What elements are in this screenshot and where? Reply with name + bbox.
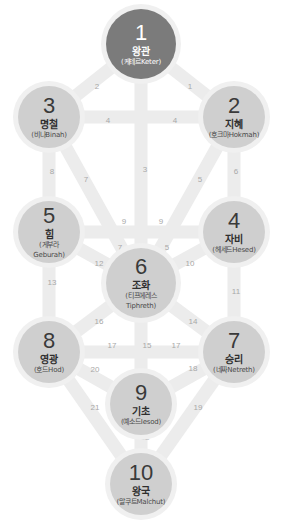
sephirah-number: 3 [43,95,55,117]
sephirah-transliteration: (비나Binah) [31,131,67,140]
sephirah-node-8: 8영광(호드Hod) [18,321,80,383]
path-number-label: 6 [234,167,239,176]
path-number-label: 4 [173,116,178,125]
sephirah-transliteration: (티프에레스 [125,292,157,301]
sephirah-transliteration: (호크마Hokmah) [209,131,259,140]
path-number-label: 20 [91,365,100,374]
sephirah-name: 영광 [40,354,58,365]
sephirah-name: 승리 [225,354,243,365]
path-number-label: 13 [48,278,57,287]
path-number-label: 8 [50,167,55,176]
sephirah-transliteration: Geburah) [33,251,64,260]
sephirah-node-5: 5힘(게부라Geburah) [18,201,80,263]
path-number-label: 10 [186,259,195,268]
sephirah-node-10: 10왕국(말쿠트Malchut) [110,453,172,515]
sephirah-node-7: 7승리(네짜Netreth) [203,321,265,383]
path-number-label: 17 [172,341,181,350]
path-number-label: 3 [143,165,148,174]
path-number-label: 21 [91,403,100,412]
path-number-label: 4 [106,116,111,125]
sephirah-name: 기초 [132,406,150,417]
path-number-label: 1 [188,82,193,91]
path-number-label: 14 [189,317,198,326]
sephirah-name: 자비 [225,234,243,245]
sephirah-number: 1 [135,22,147,44]
sephirah-node-3: 3명철(비나Binah) [18,86,80,148]
sephirah-number: 2 [228,95,240,117]
path-number-label: 2 [95,82,100,91]
path-number-label: 12 [95,259,104,268]
path-number-label: 15 [143,341,152,350]
path-number-label: 17 [108,341,117,350]
sephirah-number: 10 [129,462,153,484]
path-number-label: 16 [95,317,104,326]
path-number-label: 7 [84,175,89,184]
sephirah-node-2: 2지혜(호크마Hokmah) [203,86,265,148]
sephirah-name: 명철 [40,119,58,130]
path-number-label: 9 [122,217,127,226]
sephirah-number: 8 [43,330,55,352]
sephirah-transliteration: (예소드Iesod) [121,418,161,427]
sephirah-name: 조화 [132,280,150,291]
sephirah-transliteration: (케테르Keter) [121,58,161,67]
sephirah-number: 5 [43,205,55,227]
sephirah-transliteration: Tiphreth) [126,302,156,311]
sephirah-name: 지혜 [225,119,243,130]
sephirah-transliteration: (호드Hod) [34,366,64,375]
sephirah-node-6: 6조화(티프에레스Tiphreth) [106,248,176,318]
sephirah-number: 7 [228,330,240,352]
path-number-label: 5 [198,175,203,184]
path-number-label: 11 [232,287,241,296]
sephirah-name: 왕국 [132,486,150,497]
sephirah-node-1: 1왕관(케테르Keter) [106,9,176,79]
sephirah-transliteration: (게부라 [39,241,59,250]
sephirah-name: 왕관 [132,46,150,57]
path-number-label: 18 [189,364,198,373]
path-number-label: 19 [194,403,203,412]
sephirah-transliteration: (네짜Netreth) [213,366,255,375]
sephirah-name: 힘 [45,229,54,240]
sephirah-node-9: 9기초(예소드Iesod) [110,373,172,435]
path-number-label: 9 [159,217,164,226]
sephirah-node-4: 4자비(헤세드Hesed) [203,201,265,263]
sephirah-transliteration: (헤세드Hesed) [212,246,255,255]
sephirah-number: 4 [228,210,240,232]
sephirah-number: 6 [135,256,147,278]
sephirah-number: 9 [135,382,147,404]
sephirah-transliteration: (말쿠트Malchut) [117,498,166,507]
